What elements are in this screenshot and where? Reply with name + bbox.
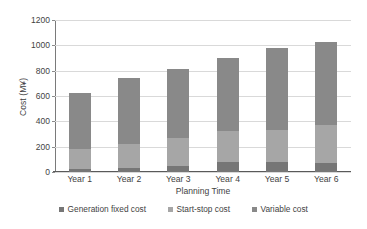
stacked-bar[interactable]: [118, 78, 140, 172]
bar-segment[interactable]: [167, 166, 189, 172]
x-axis-tick-label: Year 4: [203, 174, 252, 184]
bar-slot: [252, 20, 301, 172]
bar-segment[interactable]: [69, 93, 91, 149]
bar-slot: [104, 20, 153, 172]
gridline: [55, 172, 351, 173]
bar-slot: [302, 20, 351, 172]
x-axis-tick-label: Year 1: [55, 174, 104, 184]
legend-swatch-icon: [168, 207, 173, 212]
legend-label: Generation fixed cost: [68, 204, 146, 214]
y-axis-title: Cost (M¥): [10, 0, 28, 60]
bar-segment[interactable]: [217, 58, 239, 131]
bar-segment[interactable]: [118, 144, 140, 169]
bar-slot: [203, 20, 252, 172]
legend-item[interactable]: Start-stop cost: [168, 204, 230, 214]
stacked-bar[interactable]: [167, 69, 189, 172]
bar-segment[interactable]: [217, 162, 239, 172]
legend-swatch-icon: [252, 207, 257, 212]
legend-item[interactable]: Variable cost: [252, 204, 308, 214]
stacked-bar[interactable]: [266, 48, 288, 172]
y-axis-title-text: Cost (M¥): [18, 62, 28, 132]
y-axis-tick-label: 1200: [31, 15, 50, 25]
stacked-bar[interactable]: [217, 58, 239, 172]
y-axis-tick-mark: [52, 172, 55, 173]
legend-label: Start-stop cost: [177, 204, 231, 214]
legend-swatch-icon: [59, 207, 64, 212]
x-axis-tick-labels: Year 1Year 2Year 3Year 4Year 5Year 6: [55, 174, 351, 184]
x-axis-tick-label: Year 3: [154, 174, 203, 184]
x-axis-tick-label: Year 2: [104, 174, 153, 184]
bar-segment[interactable]: [167, 138, 189, 167]
x-axis-title: Planning Time: [55, 186, 351, 196]
bar-slot: [154, 20, 203, 172]
bar-segment[interactable]: [315, 163, 337, 172]
bar-segment[interactable]: [69, 149, 91, 169]
stacked-bar[interactable]: [69, 93, 91, 172]
bar-group: [55, 20, 351, 172]
bar-segment[interactable]: [118, 78, 140, 144]
y-axis-tick-label: 400: [36, 116, 50, 126]
bar-segment[interactable]: [217, 131, 239, 161]
bar-segment[interactable]: [315, 125, 337, 163]
legend-item[interactable]: Generation fixed cost: [59, 204, 146, 214]
y-axis-tick-label: 200: [36, 142, 50, 152]
legend-label: Variable cost: [261, 204, 308, 214]
bar-segment[interactable]: [266, 130, 288, 162]
x-axis-tick-label: Year 5: [252, 174, 301, 184]
x-axis-tick-label: Year 6: [302, 174, 351, 184]
y-axis-tick-label: 800: [36, 66, 50, 76]
bar-segment[interactable]: [118, 168, 140, 172]
stacked-bar[interactable]: [315, 42, 337, 172]
chart-legend: Generation fixed costStart-stop costVari…: [0, 204, 367, 214]
stacked-bar-chart: Cost (M¥) 020040060080010001200 Year 1Ye…: [0, 0, 367, 229]
bar-segment[interactable]: [266, 48, 288, 130]
bar-segment[interactable]: [266, 162, 288, 172]
y-axis-tick-label: 600: [36, 91, 50, 101]
y-axis-tick-label: 0: [45, 167, 50, 177]
bar-segment[interactable]: [315, 42, 337, 126]
bar-segment[interactable]: [69, 169, 91, 172]
bar-segment[interactable]: [167, 69, 189, 137]
bar-slot: [55, 20, 104, 172]
plot-area: 020040060080010001200: [55, 20, 351, 172]
y-axis-tick-label: 1000: [31, 40, 50, 50]
